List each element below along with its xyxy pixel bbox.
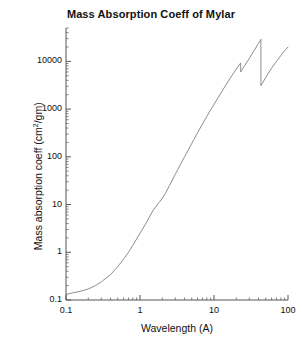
x-tick-label: 0.1 [46, 305, 86, 315]
x-tick-label: 1 [120, 305, 160, 315]
y-axis-title-exponent: 2 [32, 123, 39, 127]
chart-root: Mass Absorption Coeff of Mylar 100001000… [0, 0, 302, 351]
x-tick-label: 100 [268, 305, 302, 315]
y-axis-title-main: Mass absorption coeff (cm [32, 127, 44, 250]
y-axis-title: Mass absorption coeff (cm2/gm) [32, 56, 45, 296]
data-series-line [66, 39, 288, 294]
x-axis-title: Wavelength (A) [66, 322, 288, 334]
axes-group [66, 28, 288, 300]
x-tick-label: 10 [194, 305, 234, 315]
y-axis-title-tail: /gm) [32, 102, 44, 123]
